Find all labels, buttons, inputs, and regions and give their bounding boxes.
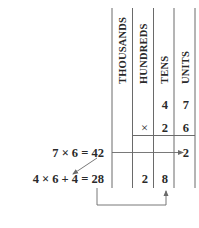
multiplier-units-digit: 6: [183, 121, 189, 135]
multiplicand-row: 4 7: [162, 98, 189, 112]
header-hundreds: HUNDREDS: [138, 23, 149, 84]
multiplicand-tens-digit: 4: [162, 98, 169, 112]
partial-row-2: 2 8: [142, 172, 168, 186]
place-value-multiplication-diagram: THOUSANDS HUNDREDS TENS UNITS 4 7 × 2 6 …: [0, 0, 199, 228]
partial-row-2-hundreds-digit: 2: [142, 172, 148, 186]
multiplicand-units-digit: 7: [183, 98, 189, 112]
header-units: UNITS: [180, 51, 191, 84]
header-tens: TENS: [159, 56, 170, 84]
multiply-operator: ×: [141, 121, 148, 135]
header-thousands: THOUSANDS: [117, 17, 128, 84]
partial-row-1-units-digit: 2: [183, 146, 189, 160]
multiplier-tens-digit: 2: [162, 121, 168, 135]
step-2-equation: 4 × 6 + 4 = 28: [33, 172, 104, 186]
multiplier-row: × 2 6: [141, 121, 189, 135]
partial-row-2-tens-digit: 8: [162, 172, 168, 186]
result-bracket-arrow: [97, 188, 166, 205]
step-1-equation: 7 × 6 = 42: [52, 146, 104, 160]
